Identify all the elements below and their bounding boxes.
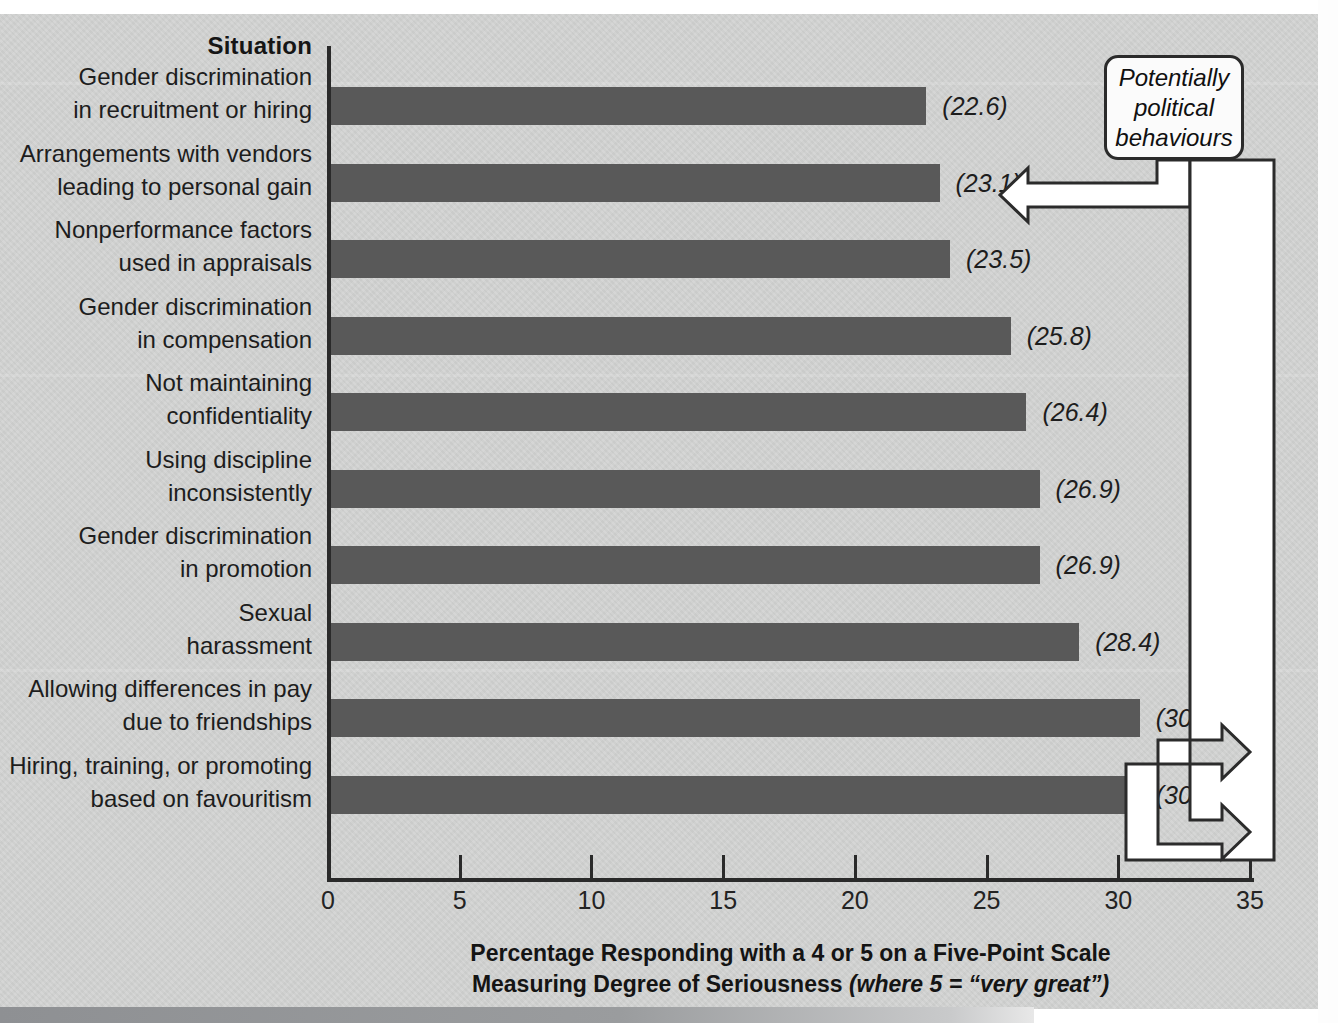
callout-line-3: behaviours [1115, 124, 1232, 151]
bar-chart: Situation Gender discriminationin recrui… [0, 0, 1338, 1023]
figure-page: Situation Gender discriminationin recrui… [0, 0, 1338, 1023]
arrow-to-vendors-bar [1000, 160, 1190, 222]
callout-line-1: Potentially [1119, 64, 1230, 91]
callout-text: Potentially political behaviours [1115, 63, 1232, 153]
callout-box: Potentially political behaviours [1104, 55, 1244, 160]
arrows-to-favouritism-bars [1126, 160, 1274, 860]
callout-line-2: political [1134, 94, 1214, 121]
